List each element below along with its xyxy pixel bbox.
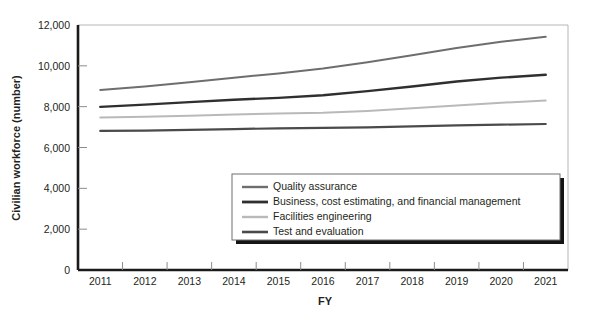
x-tick-label: 2013: [178, 275, 202, 287]
chart-canvas: 02,0004,0006,0008,00010,00012,000 201120…: [0, 0, 589, 319]
series-line-0: [100, 37, 545, 90]
x-tick-label: 2016: [311, 275, 335, 287]
x-tick-label: 2018: [400, 275, 424, 287]
legend-label-3: Test and evaluation: [273, 225, 364, 237]
x-tick-label: 2012: [133, 275, 157, 287]
x-tick-label: 2017: [356, 275, 380, 287]
x-tick-label: 2019: [445, 275, 469, 287]
y-tick-label: 0: [64, 264, 70, 276]
x-tick-label: 2011: [89, 275, 112, 287]
x-tick-label: 2014: [222, 275, 246, 287]
y-tick-label: 8,000: [44, 101, 70, 113]
y-tick-label: 12,000: [38, 19, 70, 31]
y-tick-label: 10,000: [38, 60, 70, 72]
y-axis-title: Civilian workforce (number): [10, 75, 22, 221]
series-line-3: [100, 124, 545, 131]
line-chart: 02,0004,0006,0008,00010,00012,000 201120…: [0, 0, 589, 319]
x-tick-label: 2020: [490, 275, 514, 287]
series-lines: [100, 37, 545, 131]
x-axis-title: FY: [318, 295, 333, 307]
y-tick-labels: 02,0004,0006,0008,00010,00012,000: [38, 19, 70, 276]
series-line-1: [100, 75, 545, 107]
legend-label-1: Business, cost estimating, and financial…: [273, 195, 521, 207]
x-tick-labels: 2011201220132014201520162017201820192020…: [89, 275, 558, 287]
x-tick-label: 2015: [267, 275, 291, 287]
y-tick-label: 2,000: [44, 223, 70, 235]
legend-label-2: Facilities engineering: [273, 210, 372, 222]
x-tick-label: 2021: [534, 275, 558, 287]
y-tick-label: 4,000: [44, 182, 70, 194]
legend-label-0: Quality assurance: [273, 180, 357, 192]
chart-legend: Quality assuranceBusiness, cost estimati…: [232, 174, 564, 244]
y-tick-label: 6,000: [44, 142, 70, 154]
